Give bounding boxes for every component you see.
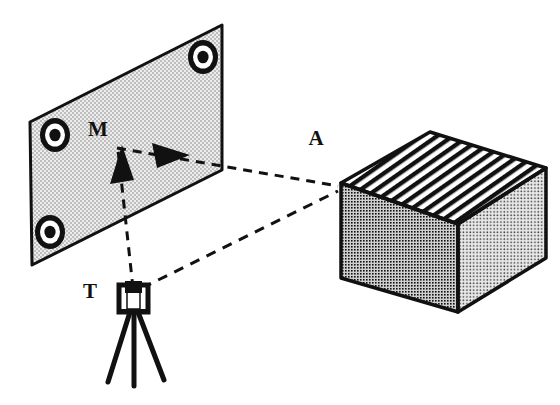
figure-canvas: M A T bbox=[0, 0, 560, 405]
target-object-cube bbox=[341, 132, 546, 312]
bullseye-target-bottom-left bbox=[35, 215, 65, 249]
tripod-leg-right bbox=[138, 312, 164, 380]
theodolite-base-plate bbox=[117, 309, 150, 314]
surveying-diagram: M A T bbox=[0, 0, 560, 405]
label-object-a: A bbox=[308, 126, 324, 150]
label-plane-m: M bbox=[88, 117, 108, 141]
label-instrument-t: T bbox=[83, 279, 97, 303]
theodolite-telescope bbox=[125, 281, 142, 293]
theodolite-on-tripod bbox=[108, 281, 164, 386]
tripod-leg-left bbox=[108, 312, 130, 382]
sight-line-instrument-to-object bbox=[142, 191, 338, 288]
reference-target-plane bbox=[30, 25, 222, 265]
theodolite-window bbox=[127, 292, 140, 309]
bullseye-target-top-right bbox=[188, 40, 218, 74]
bullseye-target-mid-left bbox=[40, 118, 70, 152]
